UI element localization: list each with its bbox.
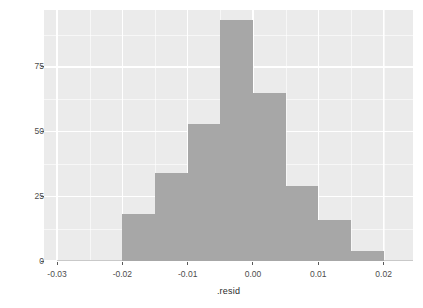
x-axis-tick-label: -0.01 bbox=[165, 270, 211, 279]
histogram-bar bbox=[318, 220, 351, 261]
x-axis-tick-mark bbox=[383, 262, 384, 265]
histogram-bar bbox=[253, 93, 286, 261]
x-axis-tick-label: 0.00 bbox=[230, 270, 276, 279]
y-axis-tick-label: 75 bbox=[14, 62, 44, 71]
histogram-bar bbox=[90, 260, 123, 261]
y-axis-tick-label: 0 bbox=[14, 257, 44, 266]
x-axis-tick-label: 0.02 bbox=[361, 270, 407, 279]
histogram-bar bbox=[286, 186, 319, 261]
x-axis-tick-mark bbox=[318, 262, 319, 265]
y-axis-tick-label: 50 bbox=[14, 127, 44, 136]
gridline-vertical-major bbox=[56, 10, 57, 261]
x-axis-title: .resid bbox=[44, 286, 413, 296]
y-axis-tick-label: 25 bbox=[14, 192, 44, 201]
histogram-bar bbox=[384, 260, 413, 261]
x-axis-tick-mark bbox=[122, 262, 123, 265]
gridline-vertical-major bbox=[383, 10, 384, 261]
histogram-bar bbox=[220, 20, 253, 261]
x-axis-tick-mark bbox=[187, 262, 188, 265]
histogram-bar bbox=[155, 173, 188, 261]
histogram-plot: count 0255075-0.03-0.02-0.010.000.010.02… bbox=[0, 0, 423, 308]
histogram-bar bbox=[188, 124, 221, 261]
x-axis-tick-mark bbox=[57, 262, 58, 265]
gridline-vertical-minor bbox=[90, 10, 91, 261]
x-axis-tick-label: -0.02 bbox=[99, 270, 145, 279]
histogram-bar bbox=[122, 214, 155, 261]
x-axis-tick-label: -0.03 bbox=[34, 270, 80, 279]
histogram-bar bbox=[57, 260, 90, 261]
histogram-bar bbox=[351, 251, 384, 261]
gridline-vertical-minor bbox=[351, 10, 352, 261]
plot-panel bbox=[44, 10, 413, 261]
x-axis-tick-mark bbox=[252, 262, 253, 265]
x-axis-tick-label: 0.01 bbox=[295, 270, 341, 279]
